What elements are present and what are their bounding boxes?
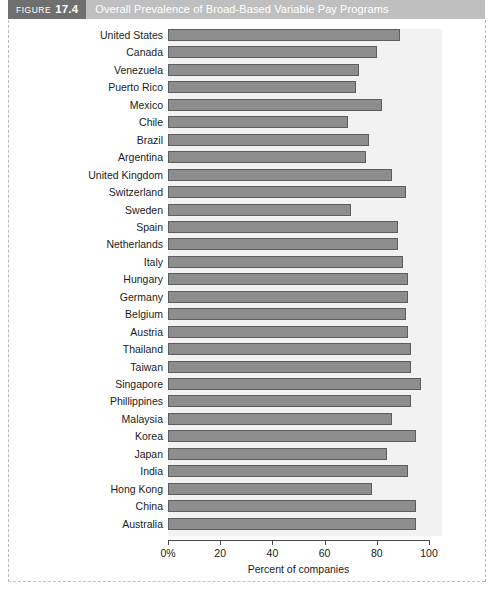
bar: [168, 465, 408, 477]
bar-series: [168, 29, 442, 536]
bar: [168, 361, 411, 373]
bar: [168, 273, 408, 285]
x-axis-line: [168, 540, 429, 541]
figure-title-bar: Overall Prevalence of Broad-Based Variab…: [86, 0, 485, 19]
category-label: Chile: [8, 117, 163, 128]
bar: [168, 343, 411, 355]
bar: [168, 308, 406, 320]
bar: [168, 430, 416, 442]
category-label: Hong Kong: [8, 484, 163, 495]
x-axis-tick-label: 40: [267, 547, 279, 559]
bar: [168, 81, 356, 93]
category-label: China: [8, 501, 163, 512]
category-label: Spain: [8, 222, 163, 233]
bar: [168, 518, 416, 530]
figure-word: FIGURE: [16, 1, 51, 20]
bar: [168, 64, 359, 76]
category-label: Argentina: [8, 152, 163, 163]
category-label: Puerto Rico: [8, 82, 163, 93]
bar: [168, 256, 403, 268]
category-label: Japan: [8, 449, 163, 460]
category-label: Venezuela: [8, 65, 163, 76]
bar: [168, 378, 421, 390]
x-axis-tick-label: 0%: [160, 547, 175, 559]
category-axis-labels: United StatesCanadaVenezuelaPuerto RicoM…: [8, 29, 163, 536]
category-label: United Kingdom: [8, 170, 163, 181]
bar: [168, 116, 348, 128]
category-label: Sweden: [8, 205, 163, 216]
figure-header: FIGURE 17.4 Overall Prevalence of Broad-…: [8, 0, 485, 19]
x-axis-tick: [377, 540, 378, 545]
bar: [168, 448, 387, 460]
bar: [168, 204, 351, 216]
x-axis-tick-label: 60: [319, 547, 331, 559]
x-axis-title: Percent of companies: [168, 563, 429, 575]
x-axis-tick: [429, 540, 430, 545]
x-axis-tick-label: 100: [420, 547, 438, 559]
category-label: Phillippines: [8, 396, 163, 407]
category-label: Brazil: [8, 135, 163, 146]
category-label: Italy: [8, 257, 163, 268]
bar: [168, 483, 372, 495]
category-label: Korea: [8, 431, 163, 442]
category-label: Thailand: [8, 344, 163, 355]
bar: [168, 413, 392, 425]
figure-number: 17.4: [55, 0, 78, 19]
x-axis-tick-label: 80: [371, 547, 383, 559]
bar: [168, 221, 398, 233]
x-axis-tick-label: 20: [214, 547, 226, 559]
bar: [168, 326, 408, 338]
bar: [168, 151, 366, 163]
x-axis-tick: [325, 540, 326, 545]
category-label: Canada: [8, 47, 163, 58]
bar-chart: United StatesCanadaVenezuelaPuerto RicoM…: [8, 19, 485, 579]
x-axis-tick: [220, 540, 221, 545]
category-label: India: [8, 466, 163, 477]
category-label: Mexico: [8, 100, 163, 111]
bar: [168, 169, 392, 181]
bar: [168, 395, 411, 407]
bar: [168, 46, 377, 58]
category-label: Australia: [8, 519, 163, 530]
bar: [168, 291, 408, 303]
bar: [168, 500, 416, 512]
page-guide-right: [485, 20, 486, 582]
figure-number-tag: FIGURE 17.4: [8, 0, 86, 19]
bar: [168, 238, 398, 250]
bar: [168, 99, 382, 111]
category-label: Netherlands: [8, 239, 163, 250]
category-label: Germany: [8, 292, 163, 303]
category-label: Taiwan: [8, 362, 163, 373]
category-label: Belgium: [8, 309, 163, 320]
bar: [168, 186, 406, 198]
category-label: Austria: [8, 327, 163, 338]
category-label: Singapore: [8, 379, 163, 390]
x-axis-tick: [168, 540, 169, 545]
category-label: Switzerland: [8, 187, 163, 198]
category-label: Malaysia: [8, 414, 163, 425]
category-label: Hungary: [8, 274, 163, 285]
category-label: United States: [8, 30, 163, 41]
bar: [168, 134, 369, 146]
figure-title: Overall Prevalence of Broad-Based Variab…: [86, 0, 388, 19]
page-guide-bottom: [8, 581, 485, 582]
bar: [168, 29, 400, 41]
x-axis-tick: [272, 540, 273, 545]
figure-page: FIGURE 17.4 Overall Prevalence of Broad-…: [0, 0, 494, 601]
